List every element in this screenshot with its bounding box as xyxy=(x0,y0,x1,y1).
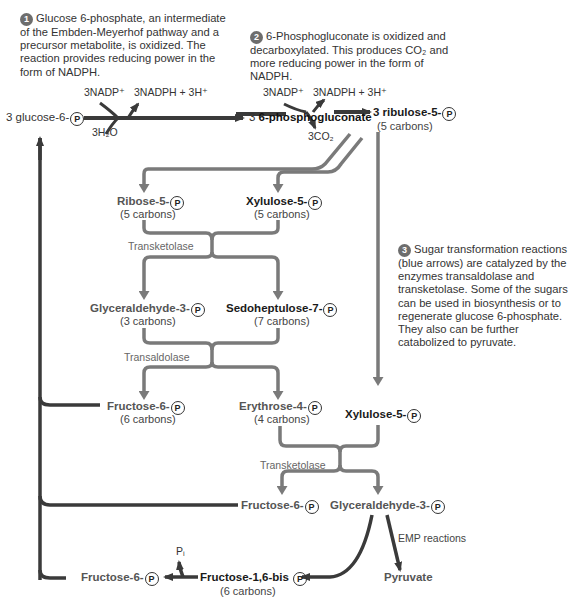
glyceraldehyde-3-phosphate-b: Glyceraldehyde-3-P xyxy=(330,499,445,514)
step2-text: 6-Phosphogluconate is oxidized and decar… xyxy=(250,30,448,82)
emp-reactions-label: EMP reactions xyxy=(398,532,466,544)
phosphate-icon: P xyxy=(323,303,337,317)
reaction2-nadp: 3NADP⁺ xyxy=(263,86,304,98)
step3-text: Sugar transformation reactions (blue arr… xyxy=(398,243,568,348)
sedoheptulose-carbons: (7 carbons) xyxy=(254,315,310,327)
phosphate-icon: P xyxy=(70,112,84,126)
phosphate-icon: P xyxy=(442,107,456,121)
transketolase-label-2: Transketolase xyxy=(260,459,326,471)
glyceraldehyde-carbons: (3 carbons) xyxy=(120,315,176,327)
phosphate-icon: P xyxy=(305,500,319,514)
fructose-bis-carbons: (6 carbons) xyxy=(220,585,276,597)
ribulose-carbons: (5 carbons) xyxy=(377,120,433,132)
step3-note: 3Sugar transformation reactions (blue ar… xyxy=(398,243,573,349)
step2-note: 26-Phosphogluconate is oxidized and deca… xyxy=(250,30,450,84)
reaction2-nadph: 3NADPH + 3H⁺ xyxy=(313,86,387,98)
xylulose-carbons: (5 carbons) xyxy=(254,208,310,220)
reaction2-co2: 3CO₂ xyxy=(308,130,334,142)
step1-note: 1Glucose 6-phosphate, an intermediate of… xyxy=(20,12,230,79)
ribose-carbons: (5 carbons) xyxy=(120,208,176,220)
fructose-6-phosphate-b: Fructose-6-P xyxy=(241,499,319,514)
fructose-a-carbons: (6 carbons) xyxy=(120,413,176,425)
reaction1-nadph: 3NADPH + 3H⁺ xyxy=(134,86,208,98)
phosphate-icon: P xyxy=(308,401,322,415)
inorganic-phosphate: Pᵢ xyxy=(176,545,185,557)
step3-number-badge: 3 xyxy=(398,244,411,257)
transketolase-2-arrows xyxy=(280,425,378,491)
transaldolase-label: Transaldolase xyxy=(124,351,190,363)
fructose-6-phosphate-c: Fructose-6-P xyxy=(81,571,159,586)
step1-number-badge: 1 xyxy=(20,13,33,26)
reaction1-water: 3H₂O xyxy=(92,126,118,138)
phosphate-icon: P xyxy=(407,409,421,423)
reaction1-nadp: 3NADP⁺ xyxy=(84,86,125,98)
emp-arrows xyxy=(165,515,400,577)
phosphate-icon: P xyxy=(431,500,445,514)
glucose-6-phosphate: 3 glucose-6-P xyxy=(6,111,84,126)
fructose-1-6-bisphosphate: Fructose-1,6-bis P xyxy=(200,571,307,586)
transketolase-1-arrows xyxy=(144,220,278,296)
step1-text: Glucose 6-phosphate, an intermediate of … xyxy=(20,12,226,78)
phosphate-icon: P xyxy=(191,303,205,317)
erythrose-carbons: (4 carbons) xyxy=(254,413,310,425)
phosphate-icon: P xyxy=(145,572,159,586)
6-phosphogluconate: 3 6-phosphogluconate xyxy=(249,111,372,123)
pyruvate: Pyruvate xyxy=(384,571,433,583)
step2-number-badge: 2 xyxy=(250,31,263,44)
phosphate-icon: P xyxy=(293,572,307,586)
xylulose-5-phosphate-b: Xylulose-5-P xyxy=(345,408,421,423)
transketolase-label-1: Transketolase xyxy=(128,240,194,252)
ribulose-5-phosphate: 3 ribulose-5-P xyxy=(373,106,456,121)
phosphate-icon: P xyxy=(308,196,322,210)
